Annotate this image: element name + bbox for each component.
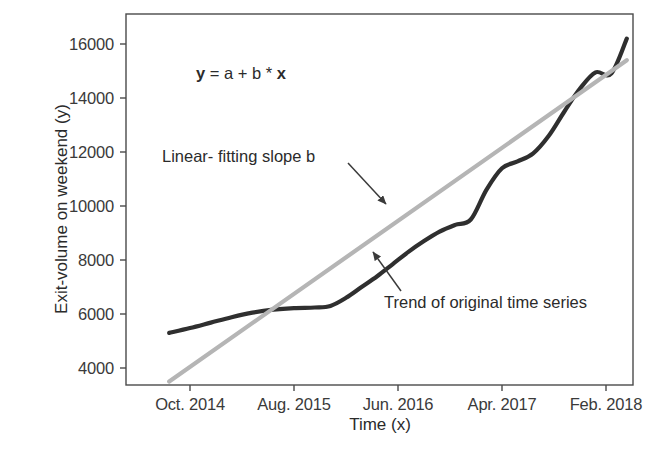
x-axis-title: Time (x) — [0, 415, 664, 435]
chart-canvas — [0, 0, 664, 458]
y-tick-label: 16000 — [20, 35, 114, 54]
annotation-arrows — [348, 163, 401, 291]
x-tick-label: Jun. 2016 — [363, 395, 434, 414]
equation-part: x — [277, 64, 286, 82]
y-tick-label: 4000 — [20, 359, 114, 378]
x-axis-ticks — [190, 385, 606, 391]
chart-figure: 40006000800010000120001400016000 Oct. 20… — [0, 0, 664, 458]
trend-annotation-arrow — [373, 252, 401, 291]
equation-part: y — [196, 64, 205, 82]
linear-fit-line — [169, 60, 627, 381]
x-tick-label: Oct. 2014 — [155, 395, 225, 414]
trend-annotation-label: Trend of original time series — [384, 293, 587, 312]
equation-annotation: y = a + b * x — [196, 64, 286, 83]
x-tick-label: Aug. 2015 — [257, 395, 330, 414]
y-axis-title: Exit-volume on weekend (y) — [52, 59, 72, 359]
equation-part: = a + b * — [205, 64, 277, 82]
y-axis-ticks — [120, 44, 126, 368]
slope-annotation-label: Linear- fitting slope b — [162, 147, 315, 166]
slope-annotation-arrow — [348, 163, 386, 204]
x-tick-label: Feb. 2018 — [570, 395, 643, 414]
x-tick-label: Apr. 2017 — [468, 395, 537, 414]
data-series-group — [169, 39, 627, 382]
